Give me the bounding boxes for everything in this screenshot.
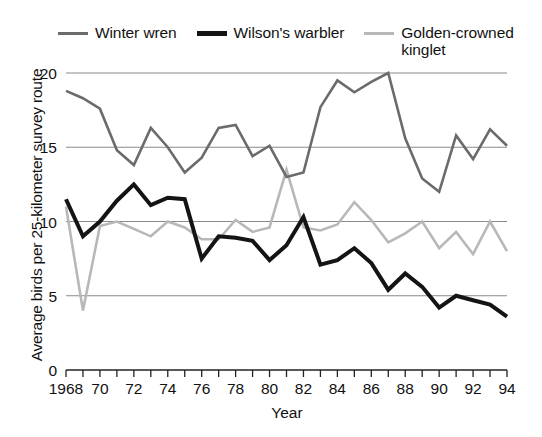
x-tick-label-1976: 76 — [193, 380, 210, 397]
series-line-wilson-s-warbler — [66, 184, 507, 316]
x-tick-label-1968: 1968 — [49, 380, 83, 397]
legend-label-golden-crowned-kinglet: Golden-crowned kinglet — [401, 24, 513, 58]
y-tick-label-5: 5 — [48, 288, 57, 305]
chart-legend: Winter wren Wilson's warbler Golden-crow… — [0, 24, 542, 66]
x-tick-label-1986: 86 — [363, 380, 380, 397]
legend-item-winter-wren: Winter wren — [58, 24, 177, 41]
legend-label-winter-wren: Winter wren — [95, 24, 177, 41]
x-tick-label-1990: 90 — [431, 380, 449, 397]
x-tick-label-1988: 88 — [397, 380, 414, 397]
x-tick-label-1978: 78 — [227, 380, 244, 397]
legend-swatch-wilsons-warbler — [197, 31, 227, 36]
x-tick-label-1982: 82 — [295, 380, 312, 397]
legend-swatch-golden-crowned-kinglet — [364, 32, 394, 35]
x-tick-label-1974: 74 — [159, 380, 177, 397]
x-tick-label-1980: 80 — [261, 380, 279, 397]
legend-label-wilsons-warbler: Wilson's warbler — [234, 24, 345, 41]
x-tick-label-1970: 70 — [91, 380, 109, 397]
legend-swatch-winter-wren — [58, 32, 88, 35]
y-tick-label-0: 0 — [48, 362, 57, 379]
legend-item-golden-crowned-kinglet: Golden-crowned kinglet — [364, 24, 513, 58]
bird-population-line-chart: Winter wren Wilson's warbler Golden-crow… — [0, 0, 542, 437]
y-axis-title: Average birds per 25-kilometer survey ro… — [28, 60, 46, 370]
x-tick-label-1994: 94 — [498, 380, 516, 397]
series-line-golden-crowned-kinglet — [66, 170, 507, 311]
x-tick-label-1992: 92 — [464, 380, 481, 397]
x-tick-label-1972: 72 — [125, 380, 142, 397]
legend-item-wilsons-warbler: Wilson's warbler — [197, 24, 345, 41]
x-axis-title: Year — [66, 404, 508, 422]
x-tick-label-1984: 84 — [329, 380, 347, 397]
